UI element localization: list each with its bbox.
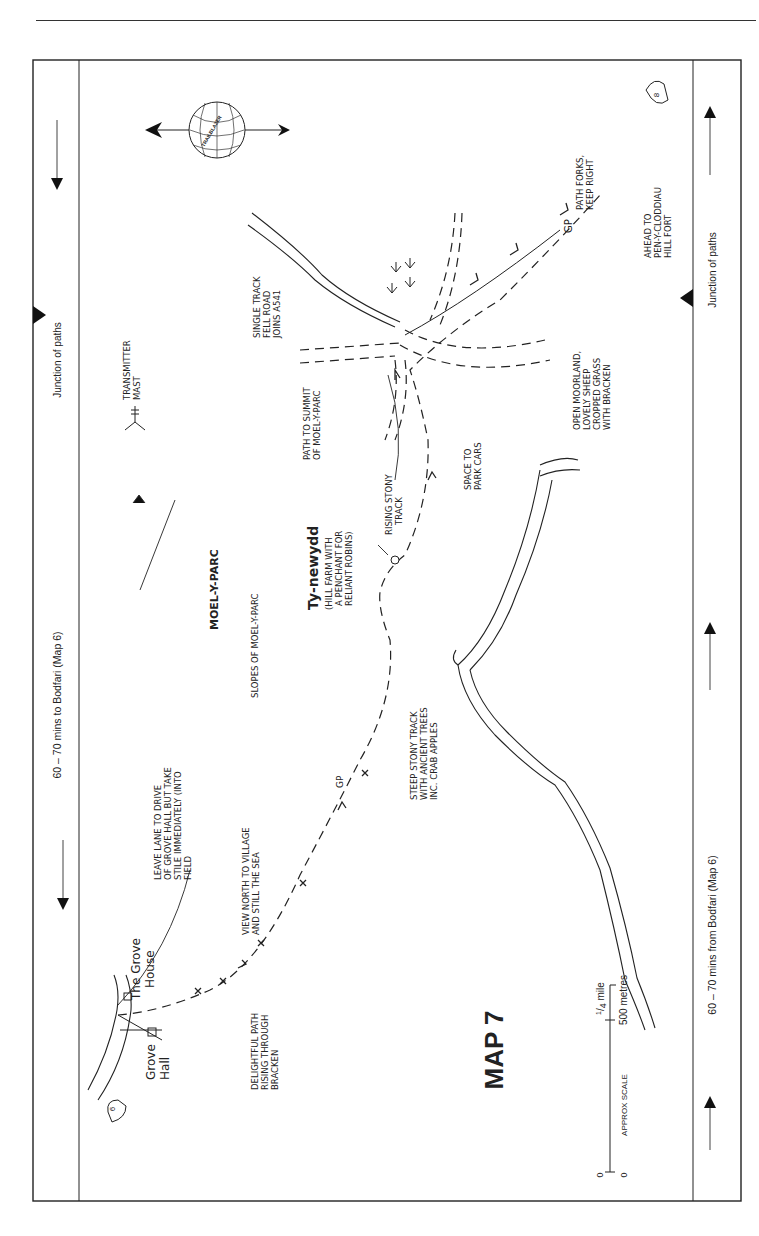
left-strip: Junction of paths 60 – 70 mins to Bodfar… [33, 120, 69, 910]
fork-path [405, 230, 560, 335]
transmitter-mast-label: TRANSMITTER MAST [122, 338, 142, 401]
scale-metres: 500 metres [618, 975, 629, 1025]
tree-icon [391, 262, 401, 272]
arrow-up-icon [704, 106, 716, 118]
scale-zero-right: 0 [619, 1172, 629, 1177]
tree-icons [387, 258, 415, 293]
single-track-note: SINGLE TRACK FELL ROAD JOINS A541 [252, 274, 282, 339]
ty-newydd-building-icon [391, 556, 399, 564]
arrow-icon [510, 243, 518, 255]
roads [88, 213, 655, 1100]
gp-marker-2: GP [563, 219, 574, 233]
right-junction-label: Junction of paths [707, 232, 718, 308]
hill-farm-note: (HILL FARM WITH A PENCHANT FOR RELIANT R… [324, 528, 354, 610]
scale-zero-left: 0 [595, 1172, 605, 1177]
arrow-up-icon [704, 622, 716, 634]
arrow-up-icon [704, 1096, 716, 1108]
moel-y-parc-label: MOEL-Y-PARC [208, 549, 221, 630]
arrow-down-icon [57, 898, 69, 910]
next-map-marker[interactable]: 8 [646, 81, 668, 103]
arrow-icon [470, 273, 478, 285]
stile-icon [258, 940, 264, 946]
trail-map: Junction of paths 60 – 70 mins to Bodfar… [0, 0, 759, 1236]
left-junction-label: Junction of paths [52, 322, 63, 398]
ty-newydd-label: Ty-newydd [305, 526, 321, 610]
tree-icon [387, 283, 397, 293]
slopes-note: SLOPES OF MOEL-Y-PARC [250, 593, 260, 698]
rising-track-note: RISING STONY TRACK [384, 472, 404, 536]
arrow-icon [560, 203, 568, 215]
scale-label: APPROX SCALE [620, 1074, 629, 1136]
svg-text:8: 8 [652, 92, 661, 97]
junction-marker-icon [33, 306, 46, 324]
transmitter-mast-icon [125, 406, 145, 430]
prev-map-marker[interactable]: 6 [108, 1100, 126, 1122]
map-title: MAP 7 [479, 1011, 509, 1090]
tree-icon [405, 258, 415, 268]
right-direction-label: 60 – 70 mins from Bodfari (Map 6) [706, 855, 718, 1014]
scale-mile: 1/4 mile [595, 982, 608, 1015]
arrow-icon [338, 802, 346, 810]
stile-icon [300, 880, 306, 886]
grove-house-label: The Grove House [129, 934, 157, 1001]
moel-y-parc-pointer [140, 500, 175, 590]
ahead-to-note: AHEAD TO PEN-Y-CLODDIAU HILL FORT [643, 184, 673, 258]
left-direction-label: 60 – 70 mins to Bodfari (Map 6) [51, 631, 63, 778]
ty-newydd-pointer [378, 545, 388, 555]
open-moorland-note: OPEN MOORLAND, LOVELY SHEEP CROPPED GRAS… [572, 348, 612, 430]
annotations: LEAVE LANE TO DRIVE OF GROVE HALL BUT TA… [153, 152, 673, 1090]
arrow-icon [428, 472, 436, 480]
north-arrow-compass: TRAILBLAZER [145, 102, 290, 158]
junction-marker-icon [680, 289, 693, 307]
path-summit-note: PATH TO SUMMIT OF MOEL-Y-PARC [302, 385, 322, 460]
place-labels: Grove Hall The Grove House MOEL-Y-PARC T… [122, 338, 321, 1080]
view-north-note: VIEW NORTH TO VILLAGE AND STILL THE SEA [241, 825, 261, 935]
tree-icon [405, 277, 415, 287]
delightful-path-note: DELIGHTFUL PATH RISING THROUGH BRACKEN [250, 1010, 280, 1090]
leave-lane-note: LEAVE LANE TO DRIVE OF GROVE HALL BUT TA… [153, 764, 193, 880]
tracks [118, 195, 600, 1015]
gp-marker-1: GP [335, 775, 345, 788]
stile-icon [362, 770, 368, 776]
steep-track-note: STEEP STONY TRACK WITH ANCIENT TREES INC… [409, 705, 439, 800]
space-park-note: SPACE TO PARK CARS [463, 442, 483, 490]
right-strip: Junction of paths 60 – 70 mins from Bodf… [680, 106, 722, 1150]
svg-text:6: 6 [108, 1106, 117, 1111]
grove-hall-label: Grove Hall [144, 1040, 172, 1080]
path-forks-note: PATH FORKS, KEEP RIGHT [575, 152, 595, 210]
stile-icon [195, 988, 201, 994]
arrow-down-icon [51, 178, 63, 190]
scale-bar: 0 0 APPROX SCALE 500 metres 1/4 mile [595, 975, 629, 1178]
